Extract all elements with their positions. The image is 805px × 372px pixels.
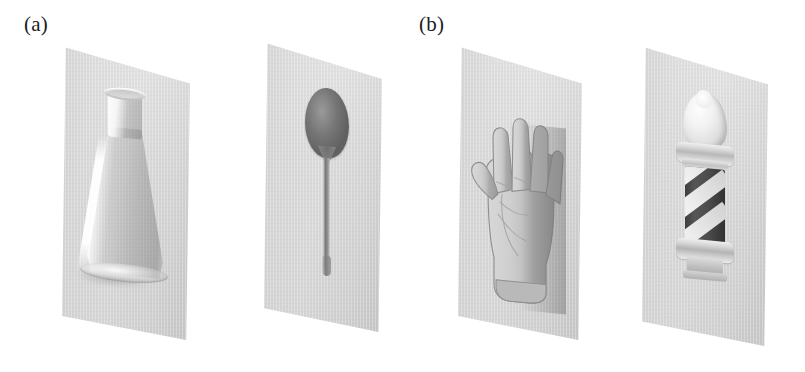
- card-contents: [264, 36, 382, 332]
- barber-pole-finial-tip: [696, 89, 712, 109]
- card-barber-pole: [642, 40, 768, 346]
- spoon-handle-end: [322, 256, 331, 277]
- hand-icon: [466, 79, 572, 325]
- card-contents: [62, 40, 190, 340]
- erlenmeyer-flask-illustration: [76, 81, 174, 300]
- card-contents: [458, 40, 582, 340]
- card-spoon: [264, 36, 382, 332]
- barber-pole-cylinder: [685, 166, 725, 246]
- barber-pole-illustration: [670, 89, 740, 296]
- ghost-text-bottom-row: [0, 338, 805, 356]
- hand-finger-index: [493, 127, 513, 195]
- card-erlenmeyer-flask: [62, 40, 190, 340]
- panel-label-a: (a): [24, 14, 48, 35]
- ghost-text-top-row: [0, 8, 805, 26]
- card-hand: [458, 40, 582, 340]
- hand-illustration: [466, 79, 572, 325]
- panel-label-b: (b): [419, 14, 444, 35]
- spoon-handle: [323, 158, 330, 271]
- hand-wrist: [496, 280, 546, 305]
- card-contents: [642, 40, 768, 346]
- figure-root: (a) (b): [0, 0, 805, 372]
- spoon-illustration: [298, 85, 356, 289]
